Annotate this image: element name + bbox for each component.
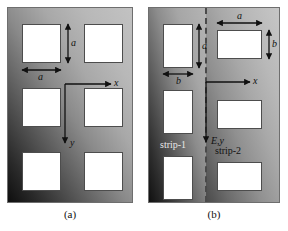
axis-label-y-a: y xyxy=(70,137,74,148)
strip-2-label: strip-2 xyxy=(215,145,241,156)
panel-b-annotations xyxy=(149,8,280,203)
dimension-label-b-s1-vertical: a xyxy=(202,40,207,51)
dimension-label-a-horizontal: a xyxy=(38,71,43,82)
axis-label-x-b: x xyxy=(253,75,257,86)
figure-root: a a x y xyxy=(0,0,288,231)
dimension-label-b-s2-vertical: b xyxy=(272,38,277,49)
panel-b: a b a b x E,y strip-1 strip-2 xyxy=(148,7,280,203)
panel-a: a a x y xyxy=(7,7,133,203)
caption-panel-a: (a) xyxy=(7,208,133,220)
dimension-label-b-s1-horizontal: b xyxy=(176,75,181,86)
dimension-label-b-s2-horizontal: a xyxy=(237,10,242,21)
axis-label-x-a: x xyxy=(114,77,118,88)
caption-panel-b: (b) xyxy=(148,208,280,220)
strip-1-label: strip-1 xyxy=(160,139,186,150)
dimension-label-a-vertical: a xyxy=(71,37,76,48)
